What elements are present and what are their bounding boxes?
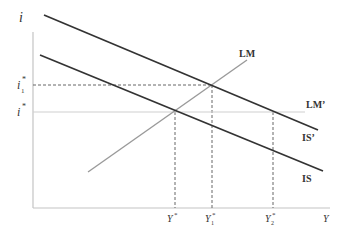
svg-text:*: *	[22, 102, 26, 111]
svg-text:i: i	[17, 105, 20, 119]
is-prime-label: IS’	[302, 132, 315, 143]
svg-text:*: *	[22, 75, 26, 84]
i1-star-label: i * 1	[17, 75, 26, 95]
lm-prime-label: LM’	[306, 99, 325, 110]
y1-star-label: Y * 1	[205, 211, 216, 226]
svg-text:*: *	[212, 211, 216, 219]
i-axis-label: i	[19, 10, 23, 25]
svg-text:*: *	[174, 211, 178, 219]
is-lm-diagram: i Y LM LM’ IS’ IS i * 1 i * Y * Y * 1 Y …	[0, 0, 348, 237]
i-star-label: i *	[17, 102, 26, 119]
svg-text:1: 1	[211, 220, 214, 226]
svg-text:*: *	[272, 211, 276, 219]
svg-text:i: i	[17, 78, 20, 92]
svg-text:2: 2	[271, 220, 274, 226]
svg-text:1: 1	[21, 87, 25, 95]
lm-curve	[88, 60, 247, 172]
y-star-label: Y *	[167, 211, 178, 224]
svg-text:Y: Y	[167, 213, 174, 224]
y-axis-label: Y	[323, 213, 330, 224]
is-label: IS	[302, 173, 312, 184]
y2-star-label: Y * 2	[265, 211, 276, 226]
lm-label: LM	[239, 48, 256, 59]
